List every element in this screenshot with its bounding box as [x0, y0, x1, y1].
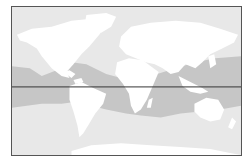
world-map: World map showing tropical zone [11, 6, 242, 156]
map-canvas [12, 7, 241, 155]
